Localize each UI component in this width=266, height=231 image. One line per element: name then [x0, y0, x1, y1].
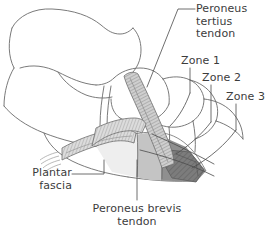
label-line-2: fascia	[8, 180, 72, 193]
leader-plantar-fascia	[72, 160, 104, 174]
label-peroneus-tertius-tendon: Peroneus tertius tendon	[196, 3, 247, 41]
leader-peroneus-tertius	[147, 9, 195, 87]
label-line-1: Peroneus	[196, 3, 247, 16]
label-line-2: tendon	[77, 216, 197, 229]
label-plantar-fascia: Plantar fascia	[8, 167, 72, 192]
label-line-1: Plantar	[8, 167, 72, 180]
label-zone-3: Zone 3	[226, 91, 265, 104]
label-line-1: Peroneus brevis	[77, 203, 197, 216]
anatomy-figure: Peroneus tertius tendon Zone 1 Zone 2 Zo…	[0, 0, 266, 231]
label-line-3: tendon	[196, 28, 247, 41]
label-zone-2: Zone 2	[202, 72, 241, 85]
label-zone-1: Zone 1	[181, 55, 220, 68]
label-peroneus-brevis-tendon: Peroneus brevis tendon	[77, 203, 197, 228]
